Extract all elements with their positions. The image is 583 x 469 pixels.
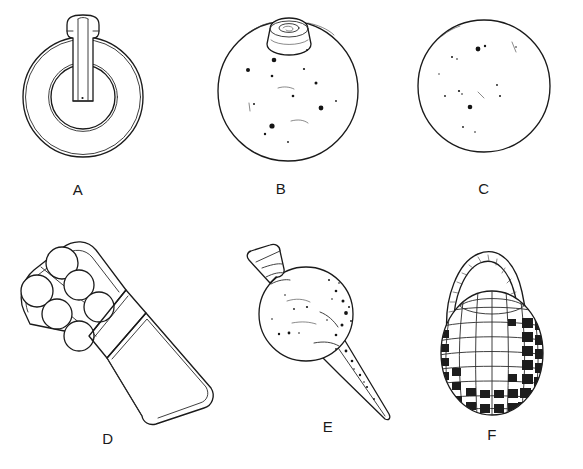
sphere-outline (418, 20, 550, 152)
figure-c-drawing (412, 14, 572, 189)
club-handle (107, 313, 213, 425)
sphere-scratch-2 (291, 120, 308, 123)
tang-body (67, 15, 99, 101)
sphere-scratch-1 (249, 103, 250, 111)
figure-d-label: D (88, 430, 128, 447)
figure-b-label: B (261, 180, 301, 197)
spike-inner-line (332, 339, 385, 416)
sphere-scratch-3 (442, 26, 460, 36)
sphere-surface-speckles (246, 49, 337, 143)
figure-d-studded-club: D (6, 228, 216, 443)
figure-c-plain-sphere: C (412, 14, 572, 189)
figure-f-segmented-grenade: F (430, 226, 580, 441)
figure-a-ring-with-tang: A (10, 5, 180, 185)
figure-plate: A (0, 0, 583, 469)
figure-e-label: E (308, 418, 348, 435)
club-handle-top-edge (107, 358, 142, 416)
figure-b-spherical-grenade: B (208, 8, 378, 188)
figure-a-drawing (10, 5, 180, 185)
stud-3 (84, 292, 114, 322)
figure-c-label: C (464, 180, 504, 197)
sphere-surface-speckles (438, 45, 517, 133)
tang-tip-speck (81, 97, 83, 99)
figure-e-drawing (232, 235, 422, 435)
figure-e-flask-with-spike: E (232, 235, 422, 435)
figure-f-drawing (430, 226, 580, 441)
flask-body (259, 267, 353, 361)
figure-a-label: A (58, 181, 98, 198)
grenade-segmentation (435, 290, 549, 416)
stud-5 (42, 299, 72, 329)
figure-d-drawing (6, 228, 216, 443)
sphere-scratch-3 (278, 87, 294, 89)
sphere-scratch-2 (478, 92, 484, 98)
figure-b-drawing (208, 8, 378, 188)
figure-f-label: F (472, 426, 512, 443)
